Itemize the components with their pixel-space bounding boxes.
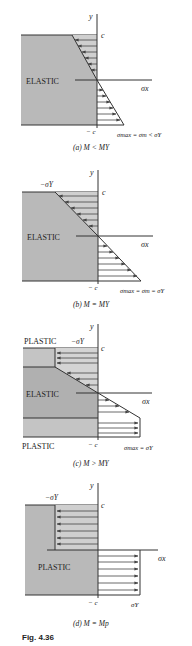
- bottom-c-label: − c: [88, 284, 98, 292]
- figure-label: Fig. 4.36: [22, 633, 55, 642]
- tension-arrows: [98, 246, 137, 276]
- neg-yield-label: −σY: [45, 493, 59, 502]
- sigma-x-label: σx: [142, 397, 150, 406]
- y-axis-label: y: [89, 168, 94, 177]
- bottom-c-label: − c: [88, 441, 98, 449]
- top-c-label: c: [101, 31, 105, 40]
- sigma-x-label: σx: [158, 554, 166, 563]
- stress-max-label: σmax = σm < σY: [117, 131, 162, 138]
- panel-d: y −σY c PLASTIC σx − c σY (d) M = Mp: [25, 481, 166, 628]
- top-c-label: c: [101, 344, 105, 353]
- stress-max-label: σmax = σY: [124, 444, 154, 451]
- yield-stress-label: σY: [131, 601, 139, 609]
- stress-max-label: σmax = σm = σY: [120, 287, 165, 294]
- tension-arrows: [97, 90, 120, 120]
- caption-c: (c) M > MY: [73, 459, 110, 468]
- neg-yield-label: −σY: [71, 337, 85, 346]
- elastic-label: ELASTIC: [27, 233, 60, 242]
- tension-arrows: [98, 556, 138, 590]
- neg-yield-label: −σY: [40, 180, 54, 189]
- plastic-label: PLASTIC: [38, 563, 70, 572]
- panel-c: y PLASTIC −σY c ELASTIC σx PLASTIC − c σ…: [22, 322, 154, 468]
- panel-a: y c ELASTIC σx − c σmax = σm < σY (a) M …: [21, 12, 162, 152]
- y-axis-label: y: [89, 481, 94, 490]
- sigma-x-label: σx: [141, 84, 149, 93]
- bottom-c-label: − c: [88, 599, 98, 607]
- plastic-top-label: PLASTIC: [24, 337, 56, 346]
- bottom-c-label: − c: [86, 128, 96, 136]
- top-c-label: c: [101, 501, 105, 510]
- elastic-label: ELASTIC: [26, 390, 59, 399]
- elastic-label: ELASTIC: [26, 77, 59, 86]
- panel-b: y −σY c ELASTIC σx − c σmax = σm = σY (b…: [22, 168, 165, 309]
- sigma-x-label: σx: [141, 240, 149, 249]
- y-axis-label: y: [88, 12, 93, 21]
- caption-d: (d) M = Mp: [73, 619, 109, 628]
- y-axis-label: y: [89, 322, 94, 331]
- caption-b: (b) M = MY: [73, 300, 110, 309]
- top-c-label: c: [102, 188, 106, 197]
- stress-distribution-figure: y c ELASTIC σx − c σmax = σm < σY (a) M …: [0, 0, 192, 646]
- plastic-bottom-label: PLASTIC: [22, 442, 54, 451]
- caption-a: (a) M < MY: [73, 143, 110, 152]
